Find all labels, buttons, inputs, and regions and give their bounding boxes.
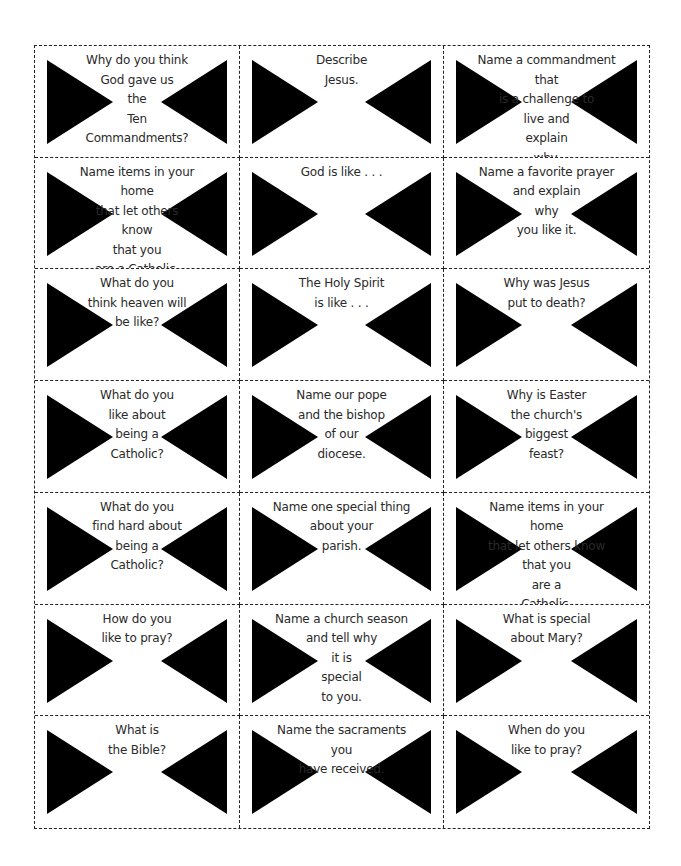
question-card: Name our pope and the bishop of our dioc…	[240, 381, 444, 493]
question-card: Name items in your home that let others …	[444, 493, 649, 605]
question-text: Name a favorite prayer and explain why y…	[474, 163, 619, 241]
question-card: When do you like to pray?	[444, 716, 649, 828]
question-card: Name a commandment that is a challenge t…	[444, 46, 649, 158]
question-card: What do you like about being a Catholic?	[35, 381, 240, 493]
question-text: What do you like about being a Catholic?	[65, 386, 209, 464]
question-text: Why is Easter the church's biggest feast…	[474, 386, 619, 464]
question-text: What do you think heaven will be like?	[65, 274, 209, 333]
question-card: What do you find hard about being a Cath…	[35, 493, 240, 605]
question-text: God is like . . .	[270, 163, 413, 183]
question-card: Name one special thing about your parish…	[240, 493, 444, 605]
question-card: Describe Jesus.	[240, 46, 444, 158]
question-text: When do you like to pray?	[474, 721, 619, 760]
triangle-left-pointing-icon	[365, 172, 431, 256]
triangle-right-pointing-icon	[252, 172, 318, 256]
question-text: Why do you think God gave us the Ten Com…	[65, 51, 209, 149]
question-card: Name a favorite prayer and explain why y…	[444, 158, 649, 270]
question-text: Name our pope and the bishop of our dioc…	[270, 386, 413, 464]
question-text: What do you find hard about being a Cath…	[65, 498, 209, 576]
question-text: Name one special thing about your parish…	[270, 498, 413, 557]
question-text: Name a commandment that is a challenge t…	[474, 51, 619, 158]
question-card: What is the Bible?	[35, 716, 240, 828]
question-card: Why is Easter the church's biggest feast…	[444, 381, 649, 493]
question-text: What is the Bible?	[65, 721, 209, 760]
question-text: The Holy Spirit is like . . .	[270, 274, 413, 313]
question-text: How do you like to pray?	[65, 610, 209, 649]
question-card: Name items in your home that let others …	[35, 158, 240, 270]
question-text: Describe Jesus.	[270, 51, 413, 90]
question-card: The Holy Spirit is like . . .	[240, 269, 444, 381]
question-text: Why was Jesus put to death?	[474, 274, 619, 313]
question-text: Name items in your home that let others …	[474, 498, 619, 605]
question-card: Name a church season and tell why it is …	[240, 605, 444, 717]
question-text: Name a church season and tell why it is …	[270, 610, 413, 708]
question-card: How do you like to pray?	[35, 605, 240, 717]
question-text: Name items in your home that let others …	[65, 163, 209, 270]
question-card: Why was Jesus put to death?	[444, 269, 649, 381]
question-card: Name the sacraments you have received.	[240, 716, 444, 828]
question-card: Why do you think God gave us the Ten Com…	[35, 46, 240, 158]
question-card: What do you think heaven will be like?	[35, 269, 240, 381]
question-card: God is like . . .	[240, 158, 444, 270]
card-sheet: Why do you think God gave us the Ten Com…	[34, 45, 650, 829]
question-text: Name the sacraments you have received.	[270, 721, 413, 780]
question-card: What is special about Mary?	[444, 605, 649, 717]
question-text: What is special about Mary?	[474, 610, 619, 649]
